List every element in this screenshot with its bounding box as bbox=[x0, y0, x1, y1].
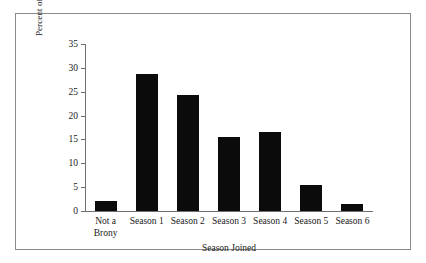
y-axis-tick-label: 5 bbox=[73, 182, 78, 192]
y-axis-tick-mark bbox=[81, 163, 85, 164]
y-axis-title: Percent of Fandom bbox=[32, 0, 46, 66]
chart-screenshot: Percent of Fandom 05101520253035 Not a B… bbox=[0, 0, 426, 263]
y-axis-tick-label: 35 bbox=[69, 39, 79, 49]
y-axis-tick-mark bbox=[81, 116, 85, 117]
y-axis-tick-mark bbox=[81, 92, 85, 93]
y-axis-tick-mark bbox=[81, 139, 85, 140]
y-axis-tick-mark bbox=[81, 68, 85, 69]
y-axis-tick-mark bbox=[81, 44, 85, 45]
y-axis-tick-label: 30 bbox=[69, 63, 79, 73]
y-axis-line bbox=[85, 44, 86, 211]
y-axis-tick-label: 20 bbox=[69, 111, 79, 121]
plot-area: 05101520253035 Not a BronySeason 1Season… bbox=[85, 44, 373, 211]
y-axis-tick-label: 10 bbox=[69, 158, 79, 168]
x-axis-tick-label: Not a Brony bbox=[85, 215, 126, 239]
x-axis-tick-label: Season 3 bbox=[208, 215, 249, 227]
x-axis-tick-label: Season 5 bbox=[291, 215, 332, 227]
y-axis-tick-label: 15 bbox=[69, 134, 79, 144]
figure-frame: Percent of Fandom 05101520253035 Not a B… bbox=[15, 13, 411, 250]
bar bbox=[177, 95, 199, 211]
bar bbox=[300, 185, 322, 211]
y-axis-tick-mark bbox=[81, 187, 85, 188]
bar bbox=[341, 204, 363, 211]
y-axis-tick-mark bbox=[81, 211, 85, 212]
x-axis-tick-label: Season 6 bbox=[332, 215, 373, 227]
x-axis-tick-label: Season 1 bbox=[126, 215, 167, 227]
bar bbox=[259, 132, 281, 211]
bar bbox=[218, 137, 240, 211]
x-axis-line bbox=[85, 211, 373, 212]
y-axis-tick-label: 0 bbox=[73, 206, 78, 216]
bar bbox=[95, 201, 117, 211]
x-axis-title: Season Joined bbox=[85, 243, 373, 253]
x-axis-tick-label: Season 4 bbox=[250, 215, 291, 227]
bar bbox=[136, 74, 158, 211]
x-axis-tick-label: Season 2 bbox=[167, 215, 208, 227]
y-axis-tick-label: 25 bbox=[69, 87, 79, 97]
